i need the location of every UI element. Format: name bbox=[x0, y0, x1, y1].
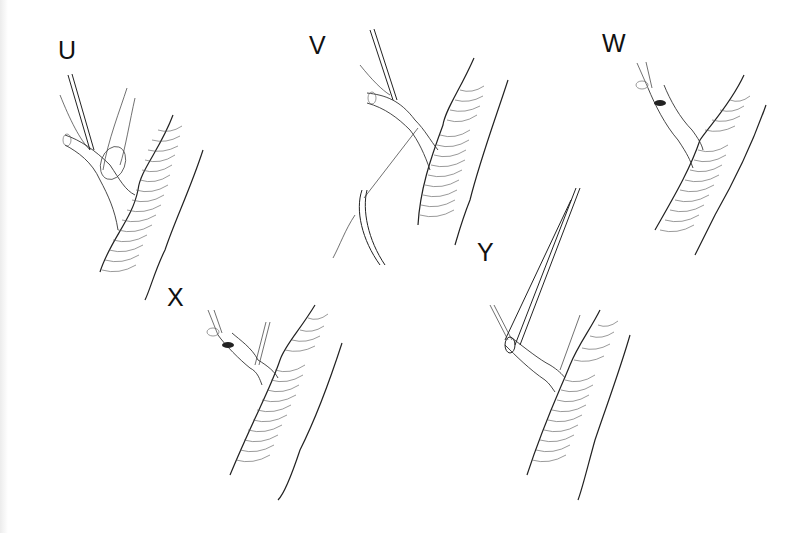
main-vessel-y bbox=[527, 310, 630, 500]
clamp-y bbox=[490, 188, 580, 370]
branch-vessel-y bbox=[505, 337, 565, 392]
panel-y-illustration bbox=[0, 0, 811, 533]
